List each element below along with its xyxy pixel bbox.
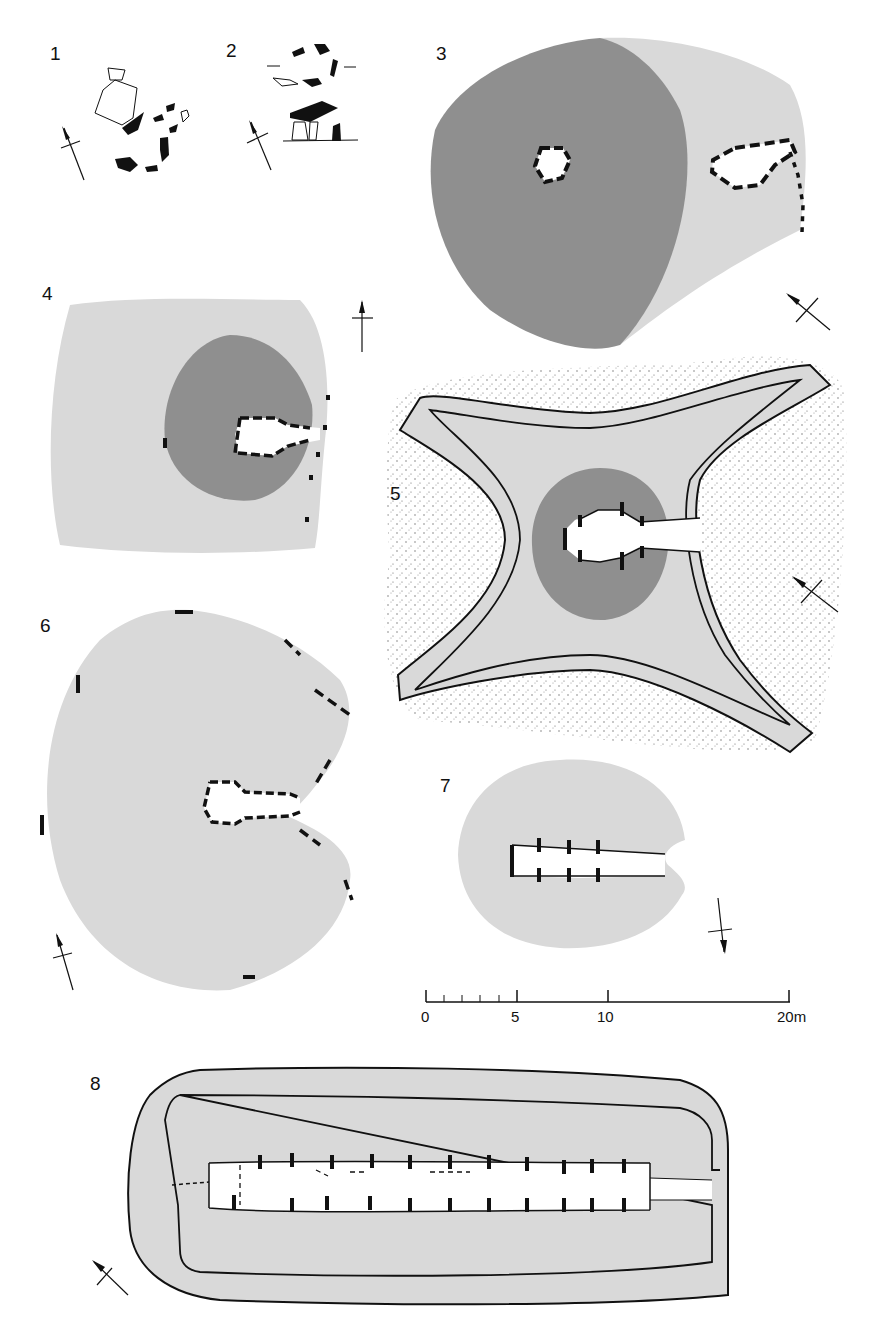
plan-label-1: 1 — [50, 43, 61, 64]
plan-3: 3 — [431, 38, 830, 349]
north-arrow-icon — [53, 933, 73, 990]
plan-label-2: 2 — [226, 40, 237, 61]
north-arrow-icon — [92, 1260, 128, 1295]
plan-8: 8 — [90, 1068, 728, 1305]
scale-tick-0: 0 — [421, 1008, 429, 1025]
plan-7: 7 — [440, 760, 732, 954]
plan-5: 5 — [384, 356, 846, 752]
north-arrow-icon — [352, 300, 373, 352]
plan-label-7: 7 — [440, 775, 451, 796]
plan-label-6: 6 — [40, 615, 51, 636]
plan-2: 2 — [226, 40, 358, 170]
scale-tick-10: 10 — [597, 1008, 614, 1025]
plan-4: 4 — [42, 283, 373, 553]
plan-label-4: 4 — [42, 283, 53, 304]
north-arrow-icon — [61, 126, 84, 180]
north-arrow-icon — [247, 120, 271, 170]
scale-tick-20m: 20m — [777, 1008, 806, 1025]
plan-6: 6 — [40, 610, 352, 991]
scale-bar: 0 5 10 20m — [421, 990, 806, 1025]
plate-figure: 1 2 — [0, 0, 876, 1334]
north-arrow-icon — [786, 293, 830, 330]
plan-label-8: 8 — [90, 1073, 101, 1094]
plan-1: 1 — [50, 43, 189, 180]
scale-tick-5: 5 — [511, 1008, 519, 1025]
north-arrow-icon — [708, 898, 732, 954]
plan-label-3: 3 — [436, 43, 447, 64]
